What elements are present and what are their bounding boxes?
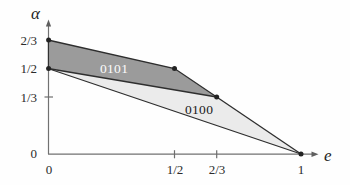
plot-area xyxy=(0,0,350,185)
vertex-point-0-1over2 xyxy=(46,66,51,71)
y-axis-label: α xyxy=(31,5,40,22)
figure-container: α e 2/3 1/2 1/3 0 0 1/2 2/3 1 0101 0100 xyxy=(0,0,350,185)
vertex-point-2over3-1over3 xyxy=(214,95,219,100)
region-label-0100: 0100 xyxy=(185,103,213,117)
vertex-point-1-0 xyxy=(299,152,304,157)
x-tick-label-0: 0 xyxy=(36,163,62,176)
y-tick-label-1-2: 1/2 xyxy=(0,62,37,75)
region-label-0101: 0101 xyxy=(100,62,128,76)
y-axis-arrowhead xyxy=(46,20,51,27)
x-axis-arrowhead xyxy=(312,152,319,157)
y-tick-label-2-3: 2/3 xyxy=(0,34,37,47)
x-tick-label-1-2: 1/2 xyxy=(160,163,190,176)
y-tick-label-0: 0 xyxy=(0,147,37,160)
vertex-point-0-2over3 xyxy=(46,38,51,43)
y-tick-label-1-3: 1/3 xyxy=(0,91,37,104)
x-tick-label-1: 1 xyxy=(288,163,314,176)
x-tick-label-2-3: 2/3 xyxy=(202,163,232,176)
vertex-point-1over2-1over2 xyxy=(172,66,177,71)
x-axis-label: e xyxy=(324,147,332,164)
